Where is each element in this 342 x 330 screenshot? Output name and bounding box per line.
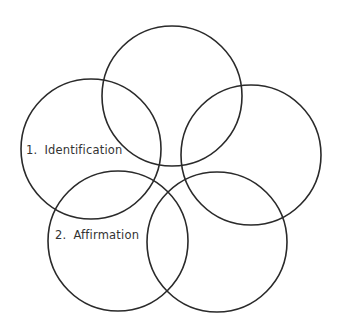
label-identification-number: 1. [26,143,37,157]
label-affirmation-text: Affirmation [73,228,139,242]
label-affirmation-number: 2. [55,228,66,242]
circle-right [181,85,321,225]
label-identification: 1.Identification [26,143,123,157]
circle-bottom-right [147,172,287,312]
label-affirmation: 2.Affirmation [55,228,139,242]
circle-top [102,26,242,166]
five-circle-diagram [0,0,342,330]
label-identification-text: Identification [44,143,122,157]
